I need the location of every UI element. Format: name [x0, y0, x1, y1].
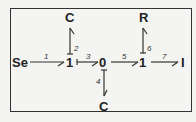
node-i: I	[181, 55, 185, 70]
bond-5	[111, 62, 138, 66]
bond-6	[140, 28, 147, 53]
bond-label-7: 7	[162, 52, 167, 61]
node-junction-1a: 1	[66, 55, 73, 70]
bond-label-1: 1	[44, 52, 48, 61]
bond-label-6: 6	[147, 44, 152, 53]
bond-7	[151, 62, 178, 66]
node-c-top: C	[65, 10, 75, 25]
bond-label-2: 2	[73, 44, 79, 53]
node-c-bottom: C	[99, 99, 109, 114]
bond-graph: Se 1 0 1 I C R C 1 2 3 4 5 6	[0, 0, 196, 122]
bond-4	[101, 70, 107, 96]
bond-label-4: 4	[96, 77, 101, 86]
node-junction-1b: 1	[139, 55, 146, 70]
bond-label-5: 5	[122, 52, 127, 61]
bond-2	[67, 28, 74, 54]
bond-1	[30, 62, 64, 66]
node-junction-0: 0	[99, 55, 106, 70]
bond-label-3: 3	[86, 52, 91, 61]
node-r: R	[139, 10, 149, 25]
node-se: Se	[12, 55, 28, 70]
